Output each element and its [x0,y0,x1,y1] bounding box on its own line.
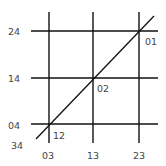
row-label-04: 04 [8,120,20,131]
column-label-13: 13 [87,150,99,161]
row-label-14: 14 [8,73,20,84]
column-labels: 03 13 23 [42,150,145,161]
intersection-label-12: 12 [53,130,65,141]
corner-label-34: 34 [11,140,23,151]
row-label-24: 24 [8,26,20,37]
intersection-label-01: 01 [145,36,157,47]
grid-diagram: 24 14 04 03 13 23 34 01 02 12 [0,0,166,166]
column-label-03: 03 [42,150,54,161]
intersection-labels: 01 02 12 [53,36,157,141]
intersection-label-02: 02 [97,83,109,94]
row-labels: 24 14 04 [8,26,20,131]
column-label-23: 23 [133,150,145,161]
